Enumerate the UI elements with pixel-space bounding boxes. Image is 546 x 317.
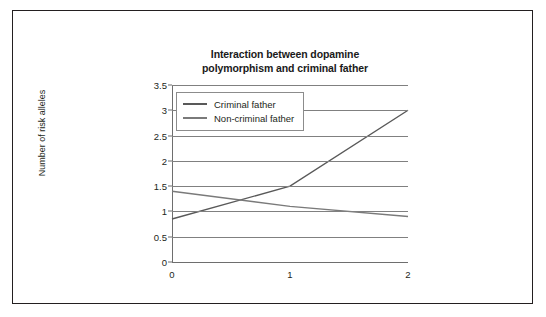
y-axis-tick-mark <box>168 85 172 86</box>
legend-label: Criminal father <box>214 99 276 110</box>
chart-figure: Interaction between dopamine polymorphis… <box>0 0 546 317</box>
y-axis-tick-mark <box>168 186 172 187</box>
chart-title-line-1: Interaction between dopamine <box>140 48 430 62</box>
legend-line-swatch <box>183 103 207 105</box>
gridline <box>172 85 408 86</box>
gridline <box>172 161 408 162</box>
chart-title-line-2: polymorphism and criminal father <box>140 62 430 76</box>
y-axis-tick-mark <box>168 160 172 161</box>
y-axis-tick-mark <box>168 110 172 111</box>
gridline <box>172 136 408 137</box>
y-axis-label: Number of risk alleles <box>37 53 47 213</box>
x-axis-tick-label: 0 <box>169 262 174 280</box>
chart-title: Interaction between dopamine polymorphis… <box>140 48 430 75</box>
gridline <box>172 186 408 187</box>
y-axis-tick-mark <box>168 135 172 136</box>
series-line-1 <box>172 191 408 216</box>
legend-line-swatch <box>183 117 207 119</box>
y-axis-tick-mark <box>168 236 172 237</box>
gridline <box>172 237 408 238</box>
x-axis-tick-label: 1 <box>287 262 292 280</box>
x-axis-tick-label: 2 <box>405 262 410 280</box>
gridline <box>172 211 408 212</box>
chart-legend: Criminal fatherNon-criminal father <box>176 92 304 131</box>
legend-item: Criminal father <box>183 97 294 111</box>
legend-item: Non-criminal father <box>183 111 294 125</box>
y-axis-tick-mark <box>168 211 172 212</box>
legend-label: Non-criminal father <box>214 113 294 124</box>
